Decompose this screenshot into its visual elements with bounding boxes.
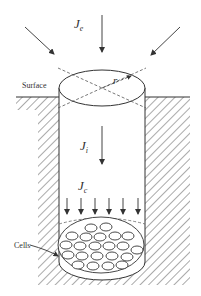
label-surface: Surface (22, 81, 47, 90)
microwell-diagram: Je Ji Jc r Surface Cells (0, 0, 201, 296)
external-flux-arrows (25, 15, 180, 55)
cell-flux-arrows (67, 198, 138, 214)
label-ji: Ji (80, 138, 88, 155)
label-je: Je (74, 16, 84, 33)
cell-mass (58, 217, 144, 273)
label-radius: r (113, 74, 118, 86)
label-cells: Cells (14, 241, 30, 250)
label-jc: Jc (78, 178, 88, 195)
